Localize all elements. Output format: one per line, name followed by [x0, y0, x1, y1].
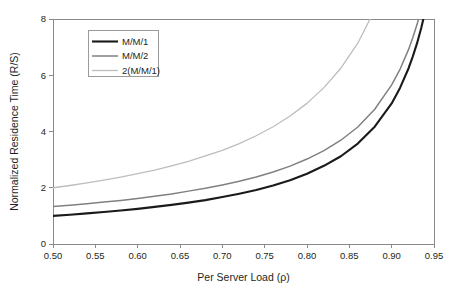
- legend-label-0: M/M/1: [122, 36, 148, 47]
- chart-figure: 02468 0.500.550.600.650.700.750.800.850.…: [0, 0, 461, 298]
- y-tick-label: 2: [41, 182, 46, 193]
- line-chart: 02468 0.500.550.600.650.700.750.800.850.…: [0, 0, 461, 298]
- y-tick-label: 8: [41, 13, 46, 24]
- y-tick-label: 0: [41, 238, 46, 249]
- x-tick-label: 0.95: [425, 250, 444, 261]
- x-tick-label: 0.50: [44, 250, 63, 261]
- y-tick-label: 4: [41, 126, 46, 137]
- x-tick-label: 0.65: [171, 250, 190, 261]
- y-axis-title: Normalized Residence Time (R/S): [8, 52, 20, 211]
- x-tick-label: 0.85: [340, 250, 359, 261]
- x-tick-label: 0.90: [382, 250, 401, 261]
- x-tick-label: 0.70: [213, 250, 232, 261]
- y-tick-label: 6: [41, 70, 46, 81]
- x-tick-label: 0.55: [86, 250, 105, 261]
- x-tick-label: 0.60: [128, 250, 147, 261]
- x-axis-ticks: 0.500.550.600.650.700.750.800.850.900.95: [44, 244, 444, 261]
- x-tick-label: 0.75: [255, 250, 274, 261]
- x-axis-title: Per Server Load (ρ): [197, 271, 289, 283]
- y-axis-ticks: 02468: [41, 13, 53, 249]
- x-tick-label: 0.80: [298, 250, 317, 261]
- legend-label-2: 2(M/M/1): [122, 65, 160, 76]
- legend-label-1: M/M/2: [122, 50, 148, 61]
- chart-legend: M/M/1M/M/22(M/M/1): [88, 31, 160, 77]
